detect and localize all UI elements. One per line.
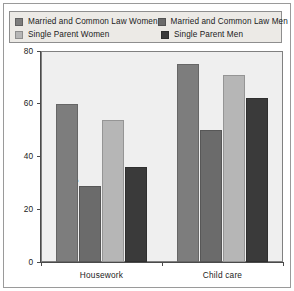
legend-label-married-common-law-men: Married and Common Law Men bbox=[171, 17, 288, 26]
plot-area bbox=[41, 51, 283, 262]
legend-label-married-common-law-women: Married and Common Law Women bbox=[28, 17, 158, 26]
legend-label-single-parent-women: Single Parent Women bbox=[28, 30, 109, 39]
legend-item-married-common-law-men: Married and Common Law Men bbox=[158, 15, 288, 28]
legend-row-1: Married and Common Law Women Married and… bbox=[15, 15, 276, 28]
legend-item-married-common-law-women: Married and Common Law Women bbox=[15, 15, 158, 28]
chart-figure: Married and Common Law Women Married and… bbox=[0, 0, 294, 291]
legend-item-single-parent-women: Single Parent Women bbox=[15, 28, 161, 41]
legend-swatch-single-parent-men bbox=[161, 31, 169, 39]
legend-row-2: Single Parent Women Single Parent Men bbox=[15, 28, 276, 41]
legend-label-single-parent-men: Single Parent Men bbox=[174, 30, 243, 39]
legend-swatch-married-common-law-men bbox=[158, 18, 166, 26]
legend-swatch-single-parent-women bbox=[15, 31, 23, 39]
legend-item-single-parent-men: Single Parent Men bbox=[161, 28, 243, 41]
legend-swatch-married-common-law-women bbox=[15, 18, 23, 26]
chart-legend: Married and Common Law Women Married and… bbox=[9, 11, 282, 43]
